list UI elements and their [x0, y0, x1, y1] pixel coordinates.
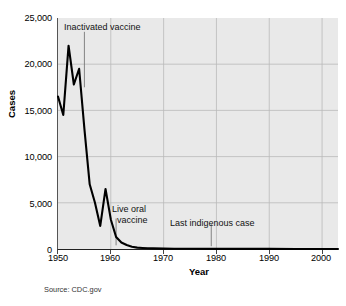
- annotation-last-indigenous-case: Last indigenous case: [170, 218, 255, 229]
- x-tick-label-1980: 1980: [206, 253, 226, 263]
- annotation-live-oral-vaccine: Live oral vaccine: [112, 204, 148, 225]
- y-axis-tick-labels: 25,000 20,000 15,000 10,000 5,000 0: [0, 18, 52, 250]
- annotation-live-oral-vaccine-text-line2: vaccine: [112, 215, 148, 226]
- annotation-inactivated-vaccine-text: Inactivated vaccine: [64, 22, 141, 32]
- x-tick-label-1960: 1960: [100, 253, 120, 263]
- source-note: Source: CDC.gov: [44, 285, 102, 294]
- annotation-last-indigenous-case-text: Last indigenous case: [170, 218, 255, 228]
- y-tick-label-10000: 10,000: [4, 153, 52, 162]
- x-tick-label-1950: 1950: [48, 253, 68, 263]
- annotation-live-oral-vaccine-text-line1: Live oral: [112, 204, 146, 214]
- x-axis-title: Year: [0, 266, 346, 277]
- polio-cases-chart-figure: 25,000 20,000 15,000 10,000 5,000 0 Case…: [0, 0, 346, 306]
- y-tick-label-20000: 20,000: [4, 60, 52, 69]
- y-tick-label-0: 0: [4, 246, 52, 255]
- x-tick-label-1970: 1970: [153, 253, 173, 263]
- data-series-polio-cases: [58, 18, 338, 249]
- annotation-inactivated-vaccine: Inactivated vaccine: [64, 22, 141, 33]
- x-tick-label-2000: 2000: [311, 253, 331, 263]
- y-tick-label-5000: 5,000: [4, 200, 52, 209]
- x-tick-label-1990: 1990: [259, 253, 279, 263]
- plot-area: [57, 18, 338, 250]
- y-axis-title: Cases: [6, 90, 17, 118]
- y-tick-label-25000: 25,000: [4, 14, 52, 23]
